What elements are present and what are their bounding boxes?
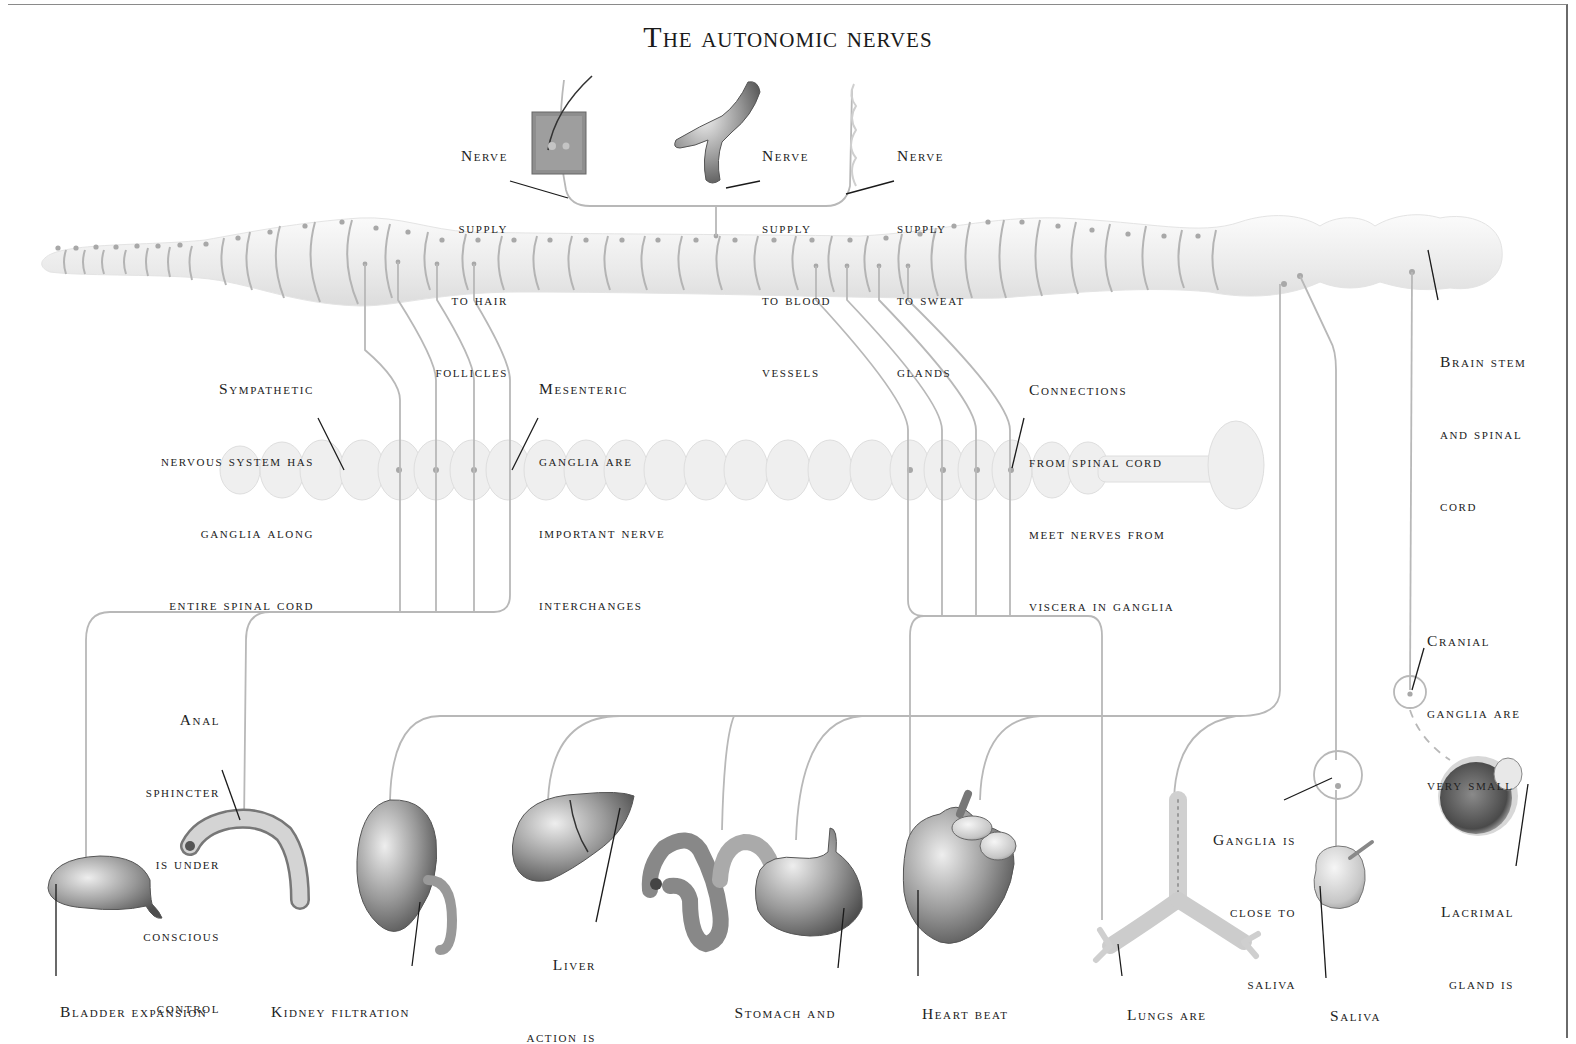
label-heart: Heart beat cannot be directly controlled xyxy=(922,954,1072,1044)
diagram-canvas: The autonomic nerves Nerve supply to hai… xyxy=(0,0,1576,1044)
diagram-title: The autonomic nerves xyxy=(0,20,1576,54)
liver-illustration xyxy=(512,792,634,881)
label-connections: Connections from spinal cord meet nerves… xyxy=(1029,330,1174,666)
label-sweat-glands: Nerve supply to sweat glands xyxy=(897,96,965,432)
blood-vessel-illustration xyxy=(675,82,760,183)
label-cranial-ganglia: Cranial ganglia are very small xyxy=(1427,581,1521,845)
stomach-intestine-illustration xyxy=(650,828,862,944)
label-liver: Liver action is independent of dog's con… xyxy=(476,905,596,1044)
label-sympathetic: Sympathetic nervous system has ganglia a… xyxy=(110,329,314,665)
label-brain-stem: Brain stem and spinal cord xyxy=(1440,302,1526,566)
label-kidney: Kidney filtration depends on brain hormo… xyxy=(222,952,410,1044)
label-mesenteric: Mesenteric ganglia are important nerve i… xyxy=(539,329,665,665)
saliva-gland-illustration xyxy=(1314,842,1372,909)
label-blood-vessels: Nerve supply to blood vessels xyxy=(762,96,831,432)
label-lungs: Lungs are enervated from thoracic region xyxy=(1127,955,1253,1044)
label-saliva: Saliva production is involuntary xyxy=(1330,956,1435,1044)
kidney-illustration xyxy=(357,800,452,950)
label-stomach-intestine: Stomach and intestine muscles are contro… xyxy=(630,953,836,1044)
heart-illustration xyxy=(903,794,1016,943)
label-bladder: Bladder expansion stimulates release of … xyxy=(60,952,208,1044)
label-hair-follicles: Nerve supply to hair follicles xyxy=(400,96,508,432)
